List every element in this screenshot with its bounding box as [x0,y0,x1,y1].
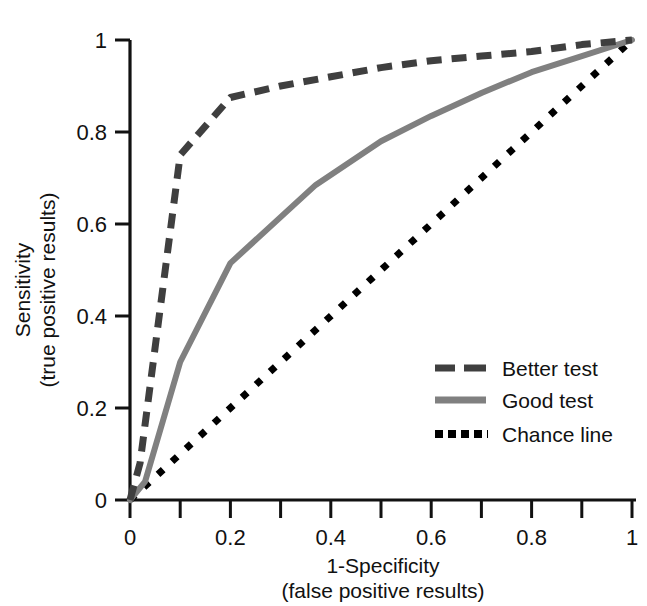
y-axis-ticks [115,40,130,500]
y-tick-label: 0.4 [76,304,107,329]
x-axis-ticks [130,500,632,518]
legend-label-better-test: Better test [502,357,598,380]
x-axis-title-sub: (false positive results) [281,579,484,602]
y-tick-label: 0.8 [76,120,107,145]
legend-label-good-test: Good test [502,389,593,412]
legend-label-chance-line: Chance line [502,423,613,446]
y-tick-label: 0.2 [76,396,107,421]
y-axis-title-main: Sensitivity [11,242,34,337]
x-tick-label: 0.8 [516,525,547,550]
legend-item-good-test[interactable]: Good test [435,389,593,412]
x-tick-label: 0.4 [316,525,347,550]
x-tick-label: 1 [626,525,638,550]
chart-legend: Better test Good test Chance line [435,357,613,446]
x-tick-label: 0 [124,525,136,550]
roc-chart-page: 1 0.8 0.6 0.4 0.2 0 0 0.2 0.4 0.6 0.8 [0,0,647,606]
legend-item-better-test[interactable]: Better test [435,357,598,380]
y-tick-label: 0 [95,488,107,513]
y-axis-title: Sensitivity (true positive results) [11,193,59,388]
y-tick-label: 1 [95,28,107,53]
y-tick-label: 0.6 [76,212,107,237]
x-tick-label: 0.2 [215,525,246,550]
legend-item-chance-line[interactable]: Chance line [435,423,613,446]
x-tick-label: 0.6 [416,525,447,550]
y-axis-tick-labels: 1 0.8 0.6 0.4 0.2 0 [76,28,107,513]
roc-curve-figure: 1 0.8 0.6 0.4 0.2 0 0 0.2 0.4 0.6 0.8 [0,0,647,606]
y-axis-title-sub: (true positive results) [36,193,59,388]
x-axis-title-main: 1-Specificity [326,554,440,577]
x-axis-title: 1-Specificity (false positive results) [281,554,484,602]
x-axis-tick-labels: 0 0.2 0.4 0.6 0.8 1 [124,525,638,550]
